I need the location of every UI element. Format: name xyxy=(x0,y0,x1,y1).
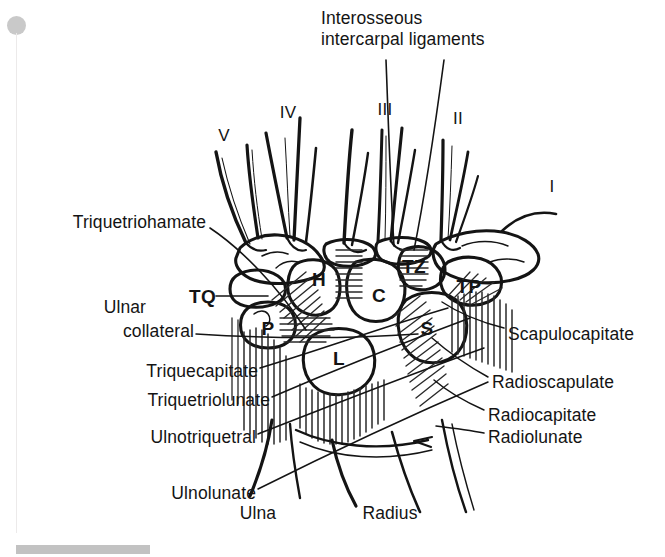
carpal-label-trapezium: TP xyxy=(457,276,482,298)
figure-canvas: Interosseous intercarpal ligaments V IV … xyxy=(0,0,665,557)
carpal-label-scaphoid: S xyxy=(421,318,434,340)
ligament-label-collateral: collateral xyxy=(123,321,194,342)
carpal-label-lunate: L xyxy=(333,348,345,370)
figure-title-line2: intercarpal ligaments xyxy=(321,29,485,50)
forearm-bones xyxy=(250,420,474,512)
metacarpal-label-v: V xyxy=(218,126,230,146)
ligament-label-scapulocapitate: Scapulocapitate xyxy=(508,324,634,345)
carpal-label-triquetrum: TQ xyxy=(189,286,216,308)
ligament-label-triquecapitate: Triquecapitate xyxy=(146,361,258,382)
figure-title-line1: Interosseous xyxy=(321,8,485,29)
metacarpal-label-iv: IV xyxy=(280,103,297,123)
metacarpal-label-i: I xyxy=(549,177,554,197)
bone-outlines xyxy=(230,231,539,395)
ligament-label-radiolunate: Radiolunate xyxy=(488,427,583,448)
metacarpal-label-iii: III xyxy=(377,100,392,120)
carpal-label-capitate: C xyxy=(372,285,386,307)
carpal-label-hamate: H xyxy=(312,269,326,291)
carpal-label-trapezoid: TZ xyxy=(402,256,426,278)
ligament-label-ulnotriquetral: Ulnotriquetral xyxy=(151,427,256,448)
forearm-label-ulna: Ulna xyxy=(240,503,276,524)
ligament-label-ulnolunate: Ulnolunate xyxy=(171,483,256,504)
figure-title: Interosseous intercarpal ligaments xyxy=(321,8,485,49)
ligament-label-triquetriohamate: Triquetriohamate xyxy=(73,212,206,233)
metacarpal-shafts xyxy=(216,118,556,245)
carpal-label-pisiform: P xyxy=(262,318,275,340)
ligament-label-radioscapulate: Radioscapulate xyxy=(492,372,614,393)
ligament-label-radiocapitate: Radiocapitate xyxy=(488,405,596,426)
forearm-label-radius: Radius xyxy=(362,503,417,524)
wrist-line-drawing xyxy=(0,0,665,557)
ligament-label-triquetriolunate: Triquetriolunate xyxy=(147,390,270,411)
ligament-label-ulnar: Ulnar xyxy=(104,297,146,318)
metacarpal-label-ii: II xyxy=(453,109,463,129)
